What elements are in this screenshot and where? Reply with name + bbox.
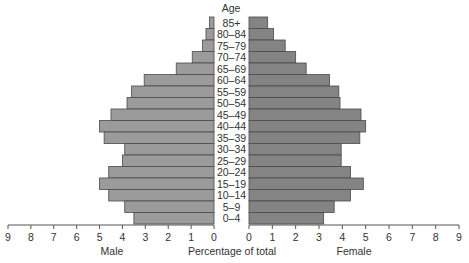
age-label: 35–39 [217,132,246,144]
female-bar-30–34 [249,144,341,156]
female-bar-50–54 [249,98,340,110]
male-tick-label: 4 [120,231,126,243]
female-bar-5–9 [249,201,334,213]
female-tick-label: 4 [339,231,345,243]
male-tick-label: 1 [188,231,194,243]
age-axis-title: Age [222,2,241,14]
male-tick-label: 9 [5,231,11,243]
female-axis-label: Female [336,245,371,257]
age-label: 50–54 [217,97,246,109]
age-label: 45–49 [217,109,246,121]
male-tick-label: 3 [142,231,148,243]
age-label: 20–24 [217,166,246,178]
male-bar-55–59 [132,86,214,98]
male-bar-70–74 [192,52,214,64]
female-bar-45–49 [249,109,361,121]
female-tick-label: 5 [363,231,369,243]
female-bar-85+ [249,17,268,29]
age-label: 15–19 [217,178,246,190]
female-tick-label: 9 [456,231,462,243]
male-bar-15–19 [100,178,214,190]
male-tick-label: 6 [74,231,80,243]
population-pyramid-chart: Age 85+80–8475–7970–7465–6960–6455–5950–… [0,0,469,263]
age-label: 0–4 [223,212,241,224]
age-label: 5–9 [223,201,241,213]
age-label: 30–34 [217,143,246,155]
x-axis-title: Percentage of total [188,245,276,257]
male-bar-75–79 [203,40,214,52]
male-tick-label: 7 [51,231,57,243]
male-bar-25–29 [122,155,214,167]
age-label: 75–79 [217,40,246,52]
male-bar-20–24 [109,167,214,179]
female-bar-70–74 [249,52,296,64]
male-tick-label: 0 [211,231,217,243]
female-bar-0–4 [249,213,324,225]
female-bar-60–64 [249,75,330,87]
female-tick-label: 7 [409,231,415,243]
male-bar-65–69 [176,63,214,75]
female-bar-20–24 [249,167,351,179]
male-bar-10–14 [109,190,214,202]
female-tick-label: 2 [293,231,299,243]
male-tick-label: 2 [165,231,171,243]
female-bar-65–69 [249,63,306,75]
male-bar-35–39 [104,132,214,144]
female-tick-label: 1 [269,231,275,243]
female-tick-label: 6 [386,231,392,243]
female-tick-label: 8 [433,231,439,243]
male-bar-50–54 [127,98,214,110]
age-label: 85+ [223,17,241,29]
male-tick-label: 5 [97,231,103,243]
female-tick-label: 0 [246,231,252,243]
male-bar-0–4 [134,213,214,225]
female-bar-40–44 [249,121,366,133]
male-bar-45–49 [111,109,214,121]
male-tick-label: 8 [28,231,34,243]
male-bar-85+ [209,17,214,29]
age-label: 80–84 [217,28,246,40]
male-bar-60–64 [144,75,214,87]
age-labels: 85+80–8475–7970–7465–6960–6455–5950–5445… [217,17,246,225]
female-bar-10–14 [249,190,351,202]
female-bar-15–19 [249,178,363,190]
female-bar-25–29 [249,155,341,167]
age-label: 25–29 [217,155,246,167]
age-label: 60–64 [217,74,246,86]
female-bar-80–84 [249,29,274,41]
male-bar-30–34 [125,144,214,156]
female-bar-55–59 [249,86,339,98]
axis-ticks: 00112233445566778899 [5,225,462,243]
male-bar-40–44 [100,121,214,133]
age-label: 65–69 [217,63,246,75]
age-label: 10–14 [217,189,246,201]
age-label: 70–74 [217,51,246,63]
male-bar-5–9 [125,201,214,213]
female-bar-75–79 [249,40,285,52]
male-axis-label: Male [101,245,124,257]
age-label: 40–44 [217,120,246,132]
female-tick-label: 3 [316,231,322,243]
male-bar-80–84 [206,29,214,41]
age-label: 55–59 [217,86,246,98]
female-bar-35–39 [249,132,360,144]
